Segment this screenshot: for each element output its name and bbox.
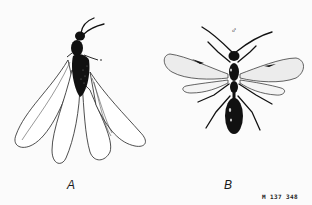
panel-a-label: A: [67, 179, 75, 191]
panel-b: ♂ B: [156, 0, 312, 205]
figure-code: M 137 348: [262, 194, 298, 200]
male-symbol-icon: ♂: [231, 27, 237, 35]
panel-a: A: [0, 0, 156, 205]
insect-b-antennae: [202, 27, 272, 52]
figure: A: [0, 0, 312, 205]
panel-b-label: B: [224, 179, 232, 191]
insect-a-antennae: [81, 18, 104, 34]
insect-b-body: [225, 51, 243, 134]
insect-a-illustration: [0, 0, 156, 205]
